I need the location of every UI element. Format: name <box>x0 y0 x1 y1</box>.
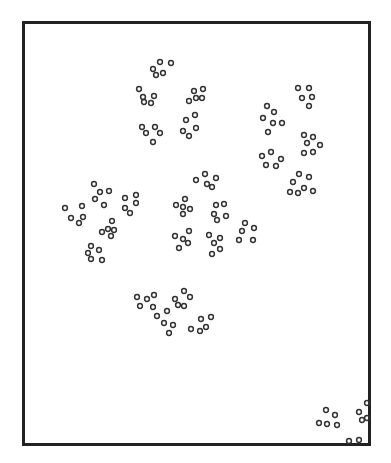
ring-marker <box>218 236 223 241</box>
ring-marker <box>187 99 192 104</box>
ring-marker <box>144 131 149 136</box>
ring-marker <box>209 315 214 320</box>
ring-marker <box>89 257 94 262</box>
ring-marker <box>307 104 312 109</box>
ring-marker <box>194 178 199 183</box>
ring-marker <box>93 197 98 202</box>
ring-marker <box>106 227 111 232</box>
ring-marker <box>205 182 210 187</box>
ring-marker <box>222 202 227 207</box>
ring-marker <box>200 96 205 101</box>
ring-marker <box>203 172 208 177</box>
ring-marker <box>128 211 133 216</box>
ring-marker <box>307 86 312 91</box>
ring-marker <box>333 413 338 418</box>
ring-marker <box>265 104 270 109</box>
ring-marker <box>167 331 172 336</box>
ring-marker <box>177 246 182 251</box>
ring-marker <box>183 197 188 202</box>
ring-marker <box>251 238 256 243</box>
ring-marker <box>188 207 193 212</box>
ring-marker <box>207 233 212 238</box>
ring-marker <box>171 323 176 328</box>
ring-marker <box>302 133 307 138</box>
ring-marker <box>243 221 248 226</box>
ring-marker <box>138 304 143 309</box>
ring-marker <box>152 293 157 298</box>
ring-marker <box>269 150 274 155</box>
ring-marker <box>204 325 209 330</box>
ring-marker <box>365 401 370 406</box>
ring-marker <box>357 438 362 443</box>
ring-marker <box>274 164 279 169</box>
ring-marker <box>174 203 179 208</box>
ring-marker <box>142 100 147 105</box>
ring-marker <box>302 151 307 156</box>
ring-marker <box>97 248 102 253</box>
ring-marker <box>158 131 163 136</box>
ring-marker <box>182 289 187 294</box>
ring-marker <box>187 134 192 139</box>
ring-marker <box>296 191 301 196</box>
ring-marker <box>145 297 150 302</box>
ring-marker <box>261 116 266 121</box>
ring-marker <box>201 87 206 92</box>
ring-marker <box>123 206 128 211</box>
ring-marker <box>141 95 146 100</box>
ring-marker <box>69 216 74 221</box>
ring-marker <box>302 186 307 191</box>
ring-marker <box>214 203 219 208</box>
ring-marker <box>151 67 156 72</box>
ring-cluster-plot <box>0 0 391 463</box>
ring-marker <box>198 329 203 334</box>
ring-marker <box>181 205 186 210</box>
ring-marker <box>365 416 370 421</box>
ring-marker <box>317 421 322 426</box>
ring-marker <box>215 218 220 223</box>
ring-marker <box>311 189 316 194</box>
ring-marker <box>212 241 217 246</box>
ring-marker <box>360 418 365 423</box>
ring-marker <box>296 86 301 91</box>
ring-marker <box>335 423 340 428</box>
ring-marker <box>123 196 128 201</box>
ring-marker <box>325 422 330 427</box>
ring-marker <box>181 212 186 217</box>
ring-marker <box>210 252 215 257</box>
ring-marker <box>77 221 82 226</box>
ring-marker <box>300 96 305 101</box>
ring-marker <box>193 113 198 118</box>
ring-marker <box>264 163 269 168</box>
ring-marker <box>305 141 310 146</box>
ring-marker <box>169 61 174 66</box>
ring-marker <box>280 121 285 126</box>
ring-marker <box>272 110 277 115</box>
ring-marker <box>100 230 105 235</box>
ring-marker <box>89 244 94 249</box>
ring-marker <box>189 327 194 332</box>
ring-marker <box>107 189 112 194</box>
ring-marker <box>311 150 316 155</box>
ring-marker <box>279 157 284 162</box>
ring-marker <box>173 297 178 302</box>
ring-marker <box>240 229 245 234</box>
ring-marker <box>80 204 85 209</box>
ring-marker <box>109 234 114 239</box>
ring-marker <box>214 176 219 181</box>
ring-marker <box>153 125 158 130</box>
ring-marker <box>266 130 271 135</box>
ring-marker <box>311 135 316 140</box>
figure-caption <box>0 456 391 463</box>
ring-marker <box>357 410 362 415</box>
ring-marker <box>252 226 257 231</box>
ring-marker <box>184 118 189 123</box>
ring-marker <box>186 241 191 246</box>
ring-marker <box>271 121 276 126</box>
ring-marker <box>98 190 103 195</box>
ring-marker <box>162 321 167 326</box>
ring-marker <box>212 212 217 217</box>
ring-marker <box>310 95 315 100</box>
ring-marker <box>151 305 156 310</box>
ring-marker <box>140 125 145 130</box>
ring-marker <box>112 228 117 233</box>
